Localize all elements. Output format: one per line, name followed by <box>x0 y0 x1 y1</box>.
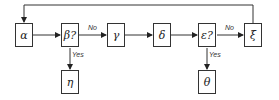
node-label: α <box>20 29 27 42</box>
connector-lines <box>0 0 279 100</box>
node-label: γ <box>113 29 120 42</box>
node-beta: β? <box>61 23 79 47</box>
edge-label-epsilon-no: No <box>225 24 234 31</box>
node-xi: ξ <box>244 23 262 47</box>
edge-label-epsilon-yes: Yes <box>209 51 221 58</box>
node-delta: δ <box>153 23 171 47</box>
node-label: ε? <box>201 29 213 42</box>
node-eta: η <box>61 70 79 94</box>
node-label: ξ <box>250 29 256 42</box>
node-label: η <box>67 76 74 89</box>
edge-label-beta-yes: Yes <box>72 51 84 58</box>
node-label: θ <box>204 76 211 89</box>
node-gamma: γ <box>107 23 125 47</box>
node-alpha: α <box>15 23 33 47</box>
node-label: δ <box>159 29 166 42</box>
edge-label-beta-no: No <box>88 24 97 31</box>
node-theta: θ <box>198 70 216 94</box>
node-label: β? <box>64 29 76 42</box>
node-epsilon: ε? <box>198 23 216 47</box>
